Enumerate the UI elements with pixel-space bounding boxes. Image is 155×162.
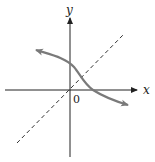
function-curve	[36, 50, 128, 105]
x-axis-label: x	[143, 83, 150, 97]
diagram-canvas: y x 0	[0, 0, 155, 162]
y-axis-label: y	[65, 3, 73, 17]
origin-label: 0	[73, 93, 80, 106]
